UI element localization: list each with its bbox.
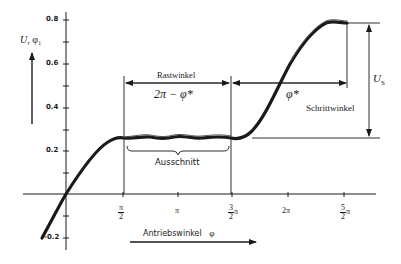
x-tick-5half-den: 2 bbox=[341, 213, 345, 221]
step-motion-diagram: 0.8 0.6 0.4 0.2 -0.2 U, φ₁ π2 π 32π 2π 5… bbox=[0, 0, 401, 264]
x-tick-3half-suffix: π bbox=[234, 207, 238, 216]
y-axis bbox=[63, 12, 69, 250]
x-tick-two-pi: 2π bbox=[282, 207, 290, 215]
step-angle-symbol: φ* bbox=[286, 88, 299, 100]
rastwinkel-label: Rastwinkel bbox=[157, 71, 195, 80]
x-tick-three-half-pi: 32π bbox=[228, 203, 238, 221]
displacement-curve bbox=[42, 20, 347, 238]
x-tick-5half-suffix: π bbox=[346, 207, 350, 216]
x-tick-five-half-pi: 52π bbox=[340, 203, 350, 221]
x-tick-pi-half-den: 2 bbox=[119, 213, 123, 221]
y-axis-label-sep: , bbox=[27, 34, 30, 45]
y-tick-0.8: 0.8 bbox=[46, 16, 58, 23]
y-tick-0.2: 0.2 bbox=[46, 147, 58, 154]
y-tick-neg-0.2: -0.2 bbox=[44, 234, 59, 241]
schrittwinkel-label: Schrittwinkel bbox=[306, 104, 355, 113]
x-axis-label-text: Antriebswinkel bbox=[143, 229, 202, 238]
us-label-sub: S bbox=[381, 79, 385, 87]
y-tick-0.4: 0.4 bbox=[46, 104, 58, 111]
x-axis bbox=[23, 192, 376, 197]
y-tick-0.6: 0.6 bbox=[46, 60, 58, 67]
y-axis-label: U, φ₁ bbox=[20, 35, 42, 45]
us-label: US bbox=[373, 73, 385, 87]
y-axis-label-phi: φ₁ bbox=[32, 34, 41, 45]
ausschnitt-label: Ausschnitt bbox=[155, 158, 200, 167]
x-axis-label: Antriebswinkel φ bbox=[143, 229, 214, 238]
x-tick-pi-half: π2 bbox=[118, 203, 124, 221]
diagram-canvas bbox=[0, 0, 401, 264]
ausschnitt-brace bbox=[127, 146, 229, 155]
rastwinkel-formula: 2π − φ* bbox=[154, 88, 193, 100]
us-label-main: U bbox=[373, 72, 381, 84]
x-axis-label-symbol: φ bbox=[209, 228, 214, 238]
x-tick-3half-den: 2 bbox=[229, 213, 233, 221]
x-tick-pi: π bbox=[175, 207, 179, 215]
